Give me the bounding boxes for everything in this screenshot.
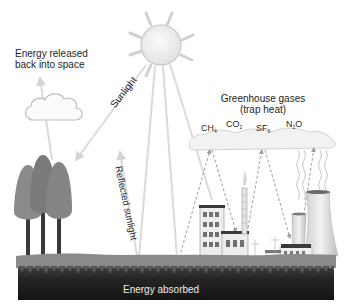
power-plant xyxy=(251,190,338,262)
energy-absorbed-label: Energy absorbed xyxy=(123,284,199,295)
greenhouse-line2: (trap heat) xyxy=(213,104,313,115)
diagram-graphics xyxy=(0,0,352,306)
trees-icon xyxy=(14,155,72,255)
gas-co2: CO2 xyxy=(226,119,242,130)
energy-released-line1: Energy released xyxy=(15,48,88,59)
energy-released-label: Energy released back into space xyxy=(15,48,88,70)
greenhouse-gases-label: Greenhouse gases (trap heat) xyxy=(213,93,313,115)
greenhouse-line1: Greenhouse gases xyxy=(213,93,313,104)
gas-sf6: SF6 xyxy=(256,123,270,134)
gas-n2o: N2O xyxy=(286,119,302,130)
cloud-icon xyxy=(26,94,82,120)
gas-ch4: CH4 xyxy=(201,123,217,134)
greenhouse-diagram: Energy released back into space Sunlight… xyxy=(0,0,352,306)
energy-released-line2: back into space xyxy=(15,59,88,70)
sun-icon xyxy=(130,13,193,76)
